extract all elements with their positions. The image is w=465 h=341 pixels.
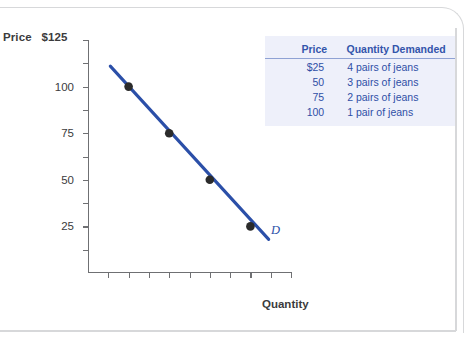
- y-tick-label-50: 50: [61, 174, 74, 186]
- data-point-1: [124, 82, 133, 91]
- table-row: 75 2 pairs of jeans: [265, 89, 455, 104]
- table-header: Price Quantity Demanded: [265, 42, 455, 59]
- y-axis-title: Price $125: [3, 31, 68, 43]
- cell-price: $25: [265, 59, 337, 75]
- card-border-bottom: [0, 330, 456, 332]
- table-body: $25 4 pairs of jeans 50 3 pairs of jeans…: [265, 59, 455, 120]
- y-tick-label-25: 25: [61, 220, 74, 232]
- x-axis-title: Quantity: [262, 298, 309, 310]
- cell-quantity: 2 pairs of jeans: [337, 89, 455, 104]
- cell-price: 75: [265, 89, 337, 104]
- demand-curve-figure-card: Price $125 Quantity 100 75 50 25 1: [0, 0, 465, 341]
- card-border-right: [455, 28, 457, 331]
- demand-curve-line: [110, 66, 268, 239]
- table-row: $25 4 pairs of jeans: [265, 59, 455, 75]
- y-tick-label-75: 75: [61, 127, 74, 139]
- data-point-3: [206, 176, 215, 185]
- table: Price Quantity Demanded $25 4 pairs of j…: [265, 42, 455, 119]
- column-header-price: Price: [265, 42, 337, 59]
- table-row: 50 3 pairs of jeans: [265, 74, 455, 89]
- cell-quantity: 1 pair of jeans: [337, 104, 455, 119]
- cell-price: 100: [265, 104, 337, 119]
- data-point-2: [165, 129, 174, 138]
- table-row: 100 1 pair of jeans: [265, 104, 455, 119]
- cell-price: 50: [265, 74, 337, 89]
- cell-quantity: 3 pairs of jeans: [337, 74, 455, 89]
- y-tick-label-100: 100: [55, 81, 74, 93]
- data-point-4: [246, 222, 255, 231]
- cell-quantity: 4 pairs of jeans: [337, 59, 455, 75]
- demand-curve-label: D: [271, 223, 280, 238]
- demand-schedule-table: Price Quantity Demanded $25 4 pairs of j…: [265, 36, 455, 126]
- column-header-quantity-demanded: Quantity Demanded: [337, 42, 455, 59]
- table-header-row: Price Quantity Demanded: [265, 42, 455, 59]
